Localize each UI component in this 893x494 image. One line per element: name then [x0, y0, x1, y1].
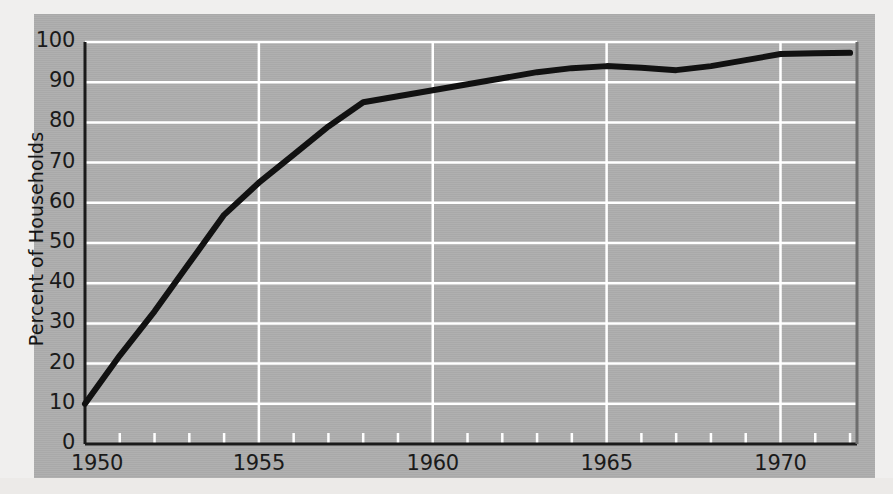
x-axis-tick-label: 1955 [214, 451, 304, 475]
x-axis-ticks [120, 433, 850, 443]
data-series-line [85, 53, 850, 404]
y-axis-tick-label: 10 [49, 390, 75, 414]
y-axis-title: Percent of Households [25, 119, 47, 359]
y-axis-tick-label: 20 [49, 350, 75, 374]
x-axis-tick-label: 1965 [562, 451, 652, 475]
y-axis-tick-label: 100 [36, 28, 75, 52]
x-axis-tick-label: 1960 [388, 451, 478, 475]
y-axis-tick-label: 40 [49, 269, 75, 293]
x-axis-tick-label: 1970 [735, 451, 825, 475]
y-axis-tick-label: 30 [49, 309, 75, 333]
x-axis-tick-label: 1950 [52, 451, 142, 475]
horizontal-gridlines [85, 42, 857, 404]
line-chart [0, 0, 893, 494]
y-axis-tick-label: 50 [49, 229, 75, 253]
y-axis-tick-label: 60 [49, 189, 75, 213]
chart-page: 0102030405060708090100 19501955196019651… [0, 0, 893, 494]
y-axis-tick-label: 90 [49, 68, 75, 92]
y-axis-tick-label: 70 [49, 149, 75, 173]
y-axis-tick-label: 80 [49, 108, 75, 132]
